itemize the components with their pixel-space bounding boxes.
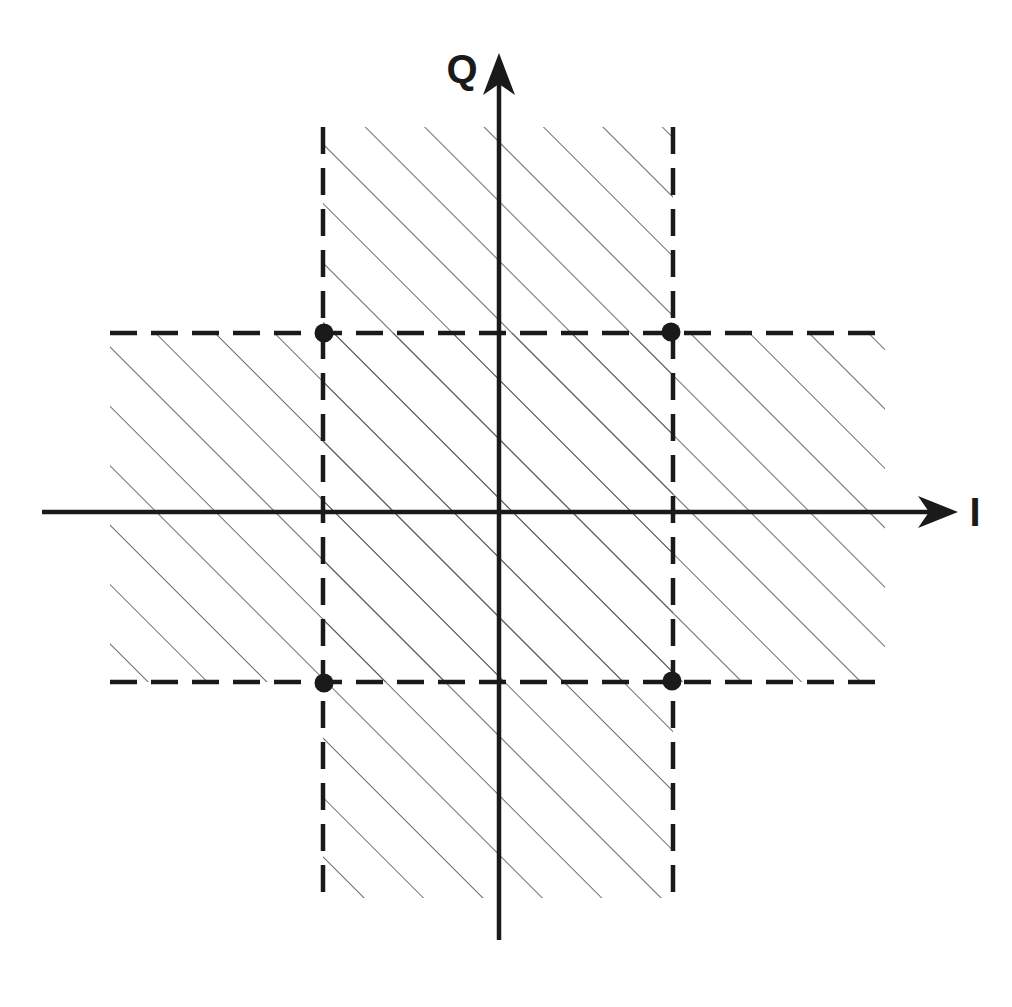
q-axis-label: Q <box>446 47 477 91</box>
constellation-decision-region-diagram: Q I <box>0 0 1012 1007</box>
constellation-point-top-left[interactable] <box>315 324 334 343</box>
figure-root: Q I <box>0 0 1012 1007</box>
constellation-point-bottom-right[interactable] <box>663 672 682 691</box>
constellation-point-bottom-left[interactable] <box>315 674 334 693</box>
constellation-point-top-right[interactable] <box>662 323 681 342</box>
i-axis-label: I <box>969 490 980 534</box>
